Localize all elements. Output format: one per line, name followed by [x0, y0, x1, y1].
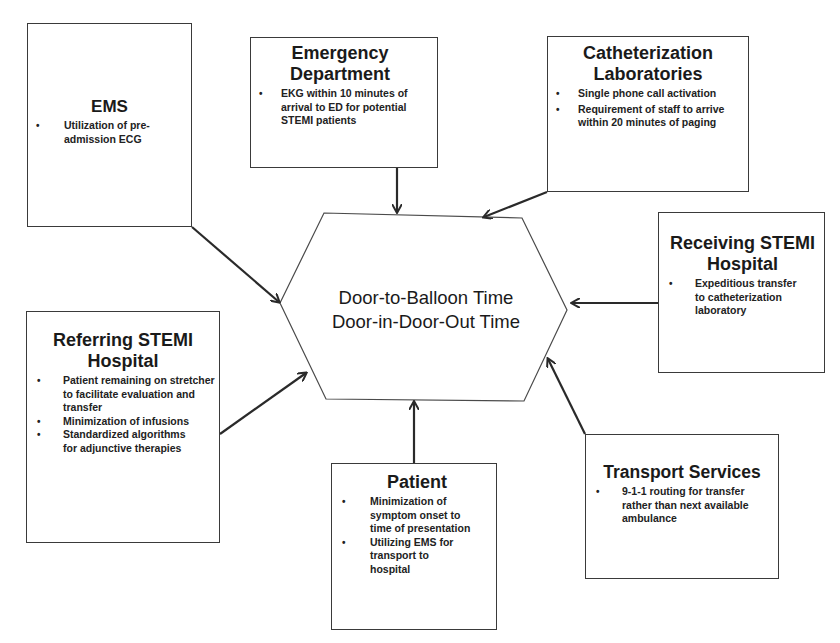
box-transport-services: Transport Services • 9-1-1 routing for t… — [585, 434, 779, 579]
box-emergency-department: Emergency Department • EKG within 10 min… — [250, 37, 438, 168]
bullet-list: • Single phone call activation • Require… — [548, 87, 748, 130]
bullet-icon: • — [556, 103, 560, 117]
bullet-list: • 9-1-1 routing for transfer rather than… — [586, 485, 778, 526]
bullet-icon: • — [342, 536, 346, 550]
bullet-icon: • — [342, 495, 346, 509]
box-referring-stemi-hospital: Referring STEMI Hospital • Patient remai… — [26, 311, 220, 543]
bullet-icon: • — [36, 119, 40, 133]
list-item-text: EKG within 10 minutes of arrival to ED f… — [281, 87, 408, 126]
bullet-list: • Minimization of symptom onset to time … — [332, 495, 496, 576]
list-item-text: 9-1-1 routing for transfer rather than n… — [622, 485, 749, 524]
center-label: Door-to-Balloon Time Door-in-Door-Out Ti… — [286, 286, 566, 334]
arrow-cath-lab — [484, 192, 547, 217]
box-title: Transport Services — [586, 462, 778, 483]
list-item: • Utilization of pre-admission ECG — [28, 119, 191, 146]
arrow-ems — [192, 227, 279, 302]
list-item-text: Requirement of staff to arrive within 20… — [578, 103, 724, 129]
list-item: • Expeditious transfer to catheterizatio… — [659, 277, 824, 318]
list-item: • Patient remaining on stretcher to faci… — [27, 374, 219, 415]
bullet-icon: • — [37, 374, 41, 388]
box-title: Emergency Department — [251, 43, 437, 85]
box-patient: Patient • Minimization of symptom onset … — [331, 463, 497, 630]
list-item: • Requirement of staff to arrive within … — [548, 103, 748, 130]
bullet-icon: • — [259, 87, 263, 101]
list-item-text: Minimization of infusions — [63, 415, 189, 427]
bullet-icon: • — [556, 87, 560, 101]
box-title: Patient — [332, 472, 496, 493]
box-title: Receiving STEMI Hospital — [659, 233, 824, 275]
list-item-text: Single phone call activation — [578, 87, 716, 99]
bullet-icon: • — [37, 415, 41, 429]
box-title: EMS — [28, 96, 191, 117]
list-item: • EKG within 10 minutes of arrival to ED… — [251, 87, 437, 128]
bullet-list: • Patient remaining on stretcher to faci… — [27, 374, 219, 455]
box-catheterization-laboratories: Catheterization Laboratories • Single ph… — [547, 36, 749, 192]
list-item-text: Minimization of symptom onset to time of… — [370, 495, 470, 534]
bullet-icon: • — [596, 485, 600, 499]
list-item: • Minimization of symptom onset to time … — [332, 495, 496, 536]
box-title: Referring STEMI Hospital — [27, 330, 219, 372]
list-item: • Single phone call activation — [548, 87, 748, 101]
list-item-text: Utilizing EMS for transport to hospital — [370, 536, 453, 575]
bullet-icon: • — [37, 428, 41, 442]
list-item: • Utilizing EMS for transport to hospita… — [332, 536, 496, 577]
bullet-list: • EKG within 10 minutes of arrival to ED… — [251, 87, 437, 128]
arrow-referring — [220, 373, 306, 434]
list-item-text: Patient remaining on stretcher to facili… — [63, 374, 215, 413]
arrow-transport — [548, 359, 585, 434]
list-item-text: Standardized algorithms for adjunctive t… — [63, 428, 186, 454]
bullet-list: • Utilization of pre-admission ECG — [28, 119, 191, 146]
list-item: • 9-1-1 routing for transfer rather than… — [586, 485, 778, 526]
bullet-list: • Expeditious transfer to catheterizatio… — [659, 277, 824, 318]
box-receiving-stemi-hospital: Receiving STEMI Hospital • Expeditious t… — [658, 212, 825, 373]
list-item: • Minimization of infusions — [27, 415, 219, 429]
list-item-text: Expeditious transfer to catheterization … — [695, 277, 797, 316]
list-item: • Standardized algorithms for adjunctive… — [27, 428, 219, 455]
center-line-1: Door-to-Balloon Time — [286, 286, 566, 310]
bullet-icon: • — [669, 277, 673, 291]
box-title: Catheterization Laboratories — [548, 43, 748, 85]
list-item-text: Utilization of pre-admission ECG — [64, 119, 150, 145]
box-ems: EMS • Utilization of pre-admission ECG — [27, 23, 192, 227]
center-line-2: Door-in-Door-Out Time — [286, 310, 566, 334]
